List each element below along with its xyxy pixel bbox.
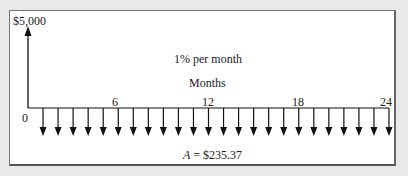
- present-value-label: $5,000: [13, 15, 46, 27]
- payment-arrows: [40, 108, 393, 136]
- annuity-label: A = $235.37: [183, 149, 242, 161]
- axis-label: Months: [189, 77, 226, 89]
- origin-label: 0: [22, 112, 28, 124]
- tick-label-18: 18: [292, 96, 304, 108]
- annuity-value: = $235.37: [190, 148, 242, 162]
- tick-label-12: 12: [202, 96, 214, 108]
- tick-label-6: 6: [112, 96, 118, 108]
- tick-label-24: 24: [380, 96, 392, 108]
- present-value-arrow: [25, 26, 32, 108]
- interest-rate-label: 1% per month: [174, 53, 242, 65]
